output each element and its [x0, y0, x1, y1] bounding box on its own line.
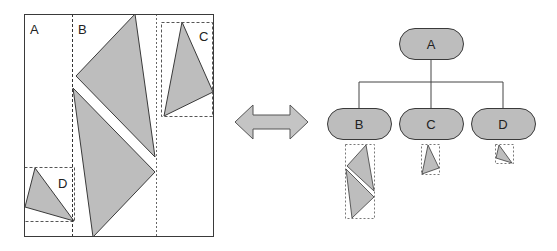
tree-node-d-label: D: [498, 117, 507, 132]
diagram: A B C D A B C D: [0, 0, 557, 251]
tree-node-c-label: C: [426, 117, 435, 132]
region-label-b: B: [78, 22, 87, 37]
region-label-a: A: [30, 22, 39, 37]
tree-node-c: C: [400, 109, 464, 140]
tree-node-b-label: B: [355, 117, 364, 132]
tree-node-d-thumbnail: [496, 145, 514, 164]
tree-diagram: A B C D: [328, 29, 536, 219]
tree-node-c-thumbnail: [422, 145, 440, 175]
tree-node-a-label: A: [427, 37, 436, 52]
double-arrow-icon: [235, 105, 308, 139]
tree-node-d: D: [472, 109, 536, 140]
tree-node-a: A: [400, 29, 464, 60]
tree-node-b: B: [328, 109, 392, 140]
region-label-d: D: [58, 176, 67, 191]
region-label-c: C: [199, 29, 208, 44]
layout-panel: A B C D: [25, 14, 214, 237]
tree-node-b-thumbnail: [346, 145, 375, 219]
